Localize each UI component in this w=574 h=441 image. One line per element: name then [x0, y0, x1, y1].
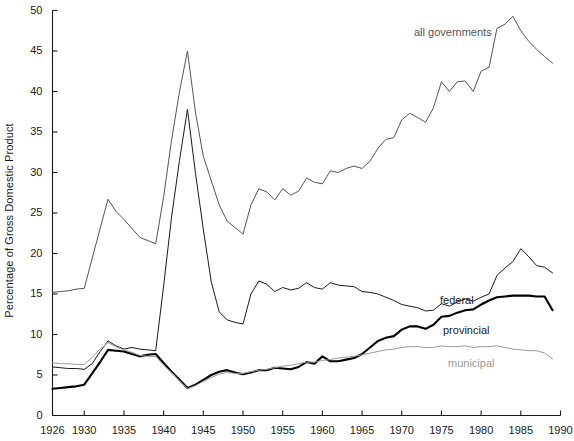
axes	[53, 11, 561, 416]
x-tick-label: 1930	[64, 424, 104, 436]
x-tick-label: 1950	[223, 424, 263, 436]
series-label-provincial: provincial	[443, 324, 489, 336]
series-label-all-governments: all governments	[414, 26, 492, 38]
x-tick-label: 1990	[541, 424, 574, 436]
x-tick-label: 1940	[144, 424, 184, 436]
x-tick-label: 1965	[342, 424, 382, 436]
y-tick-label: 50	[21, 4, 43, 16]
x-tick-label: 1975	[421, 424, 461, 436]
x-tick-label: 1985	[501, 424, 541, 436]
y-tick-label: 35	[21, 125, 43, 137]
y-tick-label: 15	[21, 287, 43, 299]
x-tick-label: 1980	[461, 424, 501, 436]
series-label-federal: federal	[440, 294, 474, 306]
series-line-all-governments	[53, 16, 553, 292]
x-tick-label: 1945	[183, 424, 223, 436]
x-tick-label: 1935	[104, 424, 144, 436]
x-tick-label: 1960	[302, 424, 342, 436]
y-tick-label: 30	[21, 166, 43, 178]
chart-container: Percentage of Gross Domestic Product 051…	[0, 0, 574, 441]
y-tick-label: 40	[21, 85, 43, 97]
chart-plot-area	[0, 0, 574, 441]
y-tick-label: 20	[21, 247, 43, 259]
series-line-provincial	[53, 296, 553, 389]
x-tick-label: 1970	[382, 424, 422, 436]
y-tick-label: 45	[21, 44, 43, 56]
y-tick-label: 5	[21, 368, 43, 380]
y-tick-label: 0	[21, 409, 43, 421]
series-label-municipal: municipal	[448, 357, 494, 369]
y-tick-label: 10	[21, 328, 43, 340]
y-tick-label: 25	[21, 206, 43, 218]
x-tick-label: 1955	[263, 424, 303, 436]
